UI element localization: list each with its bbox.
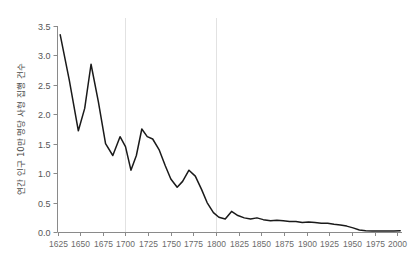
- y-tick-label: 2.0: [38, 110, 51, 120]
- x-tick-label: 1800: [207, 239, 226, 249]
- x-tick-label: 1975: [366, 239, 385, 249]
- y-tick-label: 3.5: [38, 22, 51, 32]
- x-tick-label: 1625: [49, 239, 68, 249]
- x-tick-label: 1650: [71, 239, 90, 249]
- x-tick-label: 1675: [94, 239, 113, 249]
- x-tick-label: 1950: [343, 239, 362, 249]
- x-tick-label: 1725: [139, 239, 158, 249]
- y-tick-label: 2.5: [38, 81, 51, 91]
- execution-rate-line-chart: 0.00.51.01.52.02.53.03.5 162516501675170…: [0, 0, 410, 264]
- x-tick-label: 1925: [320, 239, 339, 249]
- x-tick-label: 1775: [184, 239, 203, 249]
- y-tick-label: 1.5: [38, 140, 51, 150]
- x-tick-label: 1850: [252, 239, 271, 249]
- x-tick-label: 2000: [388, 239, 407, 249]
- chart-canvas: 0.00.51.01.52.02.53.03.5 162516501675170…: [0, 0, 410, 264]
- y-tick-label: 0.5: [38, 199, 51, 209]
- x-tick-label: 1875: [275, 239, 294, 249]
- y-tick-label: 1.0: [38, 169, 51, 179]
- y-axis-title: 연간 인구 10만 명당 사형 집행 건수: [16, 63, 26, 194]
- x-tick-label: 1700: [116, 239, 135, 249]
- y-tick-label: 3.0: [38, 51, 51, 61]
- y-tick-label: 0.0: [38, 228, 51, 238]
- x-tick-label: 1825: [230, 239, 249, 249]
- x-tick-label: 1900: [298, 239, 317, 249]
- x-tick-label: 1750: [162, 239, 181, 249]
